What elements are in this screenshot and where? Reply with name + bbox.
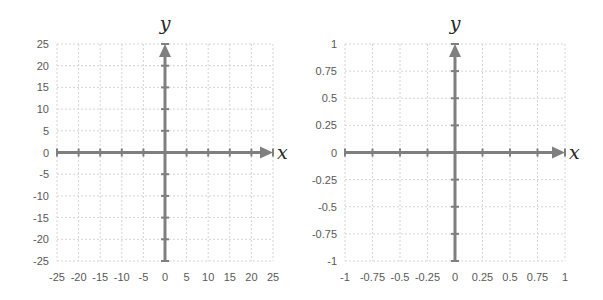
- y-tick-label: 15: [37, 81, 49, 93]
- y-axis-arrow-icon: [159, 44, 171, 57]
- y-tick-label: -5: [39, 168, 49, 180]
- y-tick-label: 10: [37, 103, 49, 115]
- coordinate-planes: -25-20-15-10-50510152025-25-20-15-10-505…: [0, 0, 603, 300]
- y-axis-arrow-icon: [449, 44, 461, 57]
- x-tick-label: 15: [224, 271, 236, 283]
- chart-right-plane: -1-0.75-0.5-0.2500.250.50.751-1-0.75-0.5…: [312, 12, 580, 283]
- y-tick-label: 0: [43, 147, 49, 159]
- x-tick-label: 0.5: [502, 271, 517, 283]
- x-tick-label: -25: [49, 271, 65, 283]
- x-tick-label: 0.25: [472, 271, 493, 283]
- x-tick-label: 0: [162, 271, 168, 283]
- y-tick-label: 0.25: [316, 119, 337, 131]
- x-tick-label: 25: [267, 271, 279, 283]
- y-tick-label: 1: [331, 38, 337, 50]
- y-tick-label: -0.25: [312, 174, 337, 186]
- x-tick-label: -5: [139, 271, 149, 283]
- x-axis-label: x: [277, 141, 288, 163]
- x-tick-label: 0: [452, 271, 458, 283]
- y-tick-label: -15: [33, 212, 49, 224]
- x-tick-label: -20: [71, 271, 87, 283]
- x-axis-label: x: [569, 141, 580, 163]
- y-tick-label: -0.75: [312, 228, 337, 240]
- y-axis-label: y: [449, 12, 461, 34]
- x-tick-label: 10: [202, 271, 214, 283]
- chart-left-plane: -25-20-15-10-50510152025-25-20-15-10-505…: [33, 12, 288, 283]
- y-tick-label: -1: [327, 255, 337, 267]
- x-tick-label: -0.25: [415, 271, 440, 283]
- x-tick-label: -10: [114, 271, 130, 283]
- y-axis-label: y: [159, 12, 171, 34]
- y-tick-label: 5: [43, 125, 49, 137]
- x-tick-label: 1: [562, 271, 568, 283]
- x-axis-arrow-icon: [552, 147, 565, 159]
- x-tick-label: -1: [340, 271, 350, 283]
- x-axis-arrow-icon: [260, 147, 273, 159]
- y-tick-label: -10: [33, 190, 49, 202]
- y-tick-label: -0.5: [318, 201, 337, 213]
- y-tick-label: 0.75: [316, 65, 337, 77]
- y-tick-label: 0.5: [322, 92, 337, 104]
- x-tick-label: -15: [92, 271, 108, 283]
- x-tick-label: 5: [184, 271, 190, 283]
- y-tick-label: 25: [37, 38, 49, 50]
- y-tick-label: 0: [331, 147, 337, 159]
- x-tick-label: 20: [245, 271, 257, 283]
- x-tick-label: -0.5: [391, 271, 410, 283]
- y-tick-label: 20: [37, 60, 49, 72]
- y-tick-label: -20: [33, 233, 49, 245]
- x-tick-label: 0.75: [527, 271, 548, 283]
- x-tick-label: -0.75: [360, 271, 385, 283]
- y-tick-label: -25: [33, 255, 49, 267]
